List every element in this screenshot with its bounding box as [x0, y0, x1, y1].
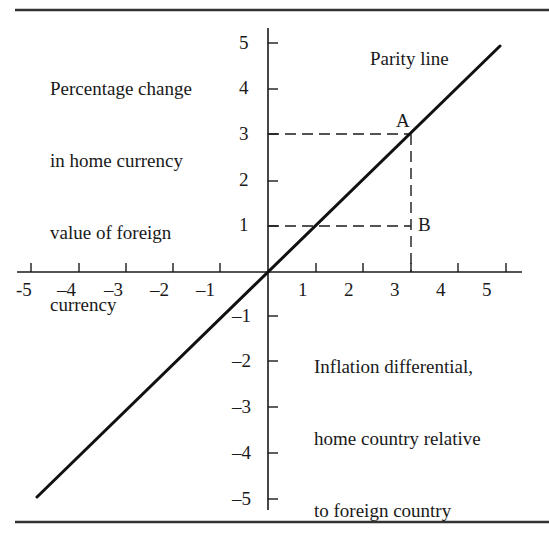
x-tick-label: 1 — [298, 280, 308, 300]
y-axis-title-line: value of foreign — [50, 221, 192, 245]
y-tick-label: –2 — [232, 351, 251, 371]
x-tick-label: –3 — [104, 280, 123, 300]
x-tick-label: –1 — [196, 280, 215, 300]
x-tick-label: -5 — [16, 280, 32, 300]
y-tick-label: 2 — [239, 170, 249, 190]
y-tick-label: –4 — [232, 443, 251, 463]
y-tick-label: 1 — [239, 215, 249, 235]
point-b-label: B — [418, 213, 431, 237]
y-tick-label: 4 — [239, 78, 249, 98]
parity-line-label: Parity line — [370, 47, 449, 71]
y-tick-label: –3 — [232, 397, 251, 417]
x-tick-label: 4 — [436, 280, 446, 300]
x-axis-title-line: Inflation differential, — [314, 355, 481, 379]
x-tick-label: –2 — [150, 280, 169, 300]
point-a-label: A — [396, 109, 410, 133]
y-axis-title-line: Percentage change — [50, 77, 192, 101]
y-axis-title-line: in home currency — [50, 149, 192, 173]
x-axis-title-line: to foreign country — [314, 499, 481, 523]
x-tick-label: –4 — [57, 280, 76, 300]
x-tick-label: 3 — [390, 280, 400, 300]
x-axis-title: Inflation differential, home country rel… — [314, 307, 481, 535]
y-tick-label: 5 — [239, 33, 249, 53]
x-axis-title-line: home country relative — [314, 427, 481, 451]
y-tick-label: –5 — [232, 489, 251, 509]
x-tick-label: 5 — [482, 280, 492, 300]
y-tick-label: 3 — [239, 124, 249, 144]
y-tick-label: –1 — [232, 306, 251, 326]
x-tick-label: 2 — [344, 280, 354, 300]
